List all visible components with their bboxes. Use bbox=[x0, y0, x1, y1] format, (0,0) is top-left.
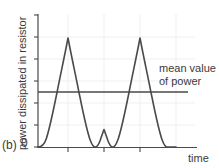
figure-container: (b) 0 time power dissipated in resistor … bbox=[0, 0, 219, 168]
mean-value-annotation-line-1: mean value bbox=[159, 62, 216, 75]
x-axis-ticks bbox=[68, 148, 140, 153]
x-axis-label: time bbox=[188, 152, 209, 165]
mean-value-annotation: mean value of power bbox=[159, 62, 216, 87]
y-axis-label: power dissipated in resistor bbox=[16, 13, 29, 153]
panel-label: (b) bbox=[2, 139, 17, 153]
mean-value-annotation-line-2: of power bbox=[159, 75, 216, 88]
